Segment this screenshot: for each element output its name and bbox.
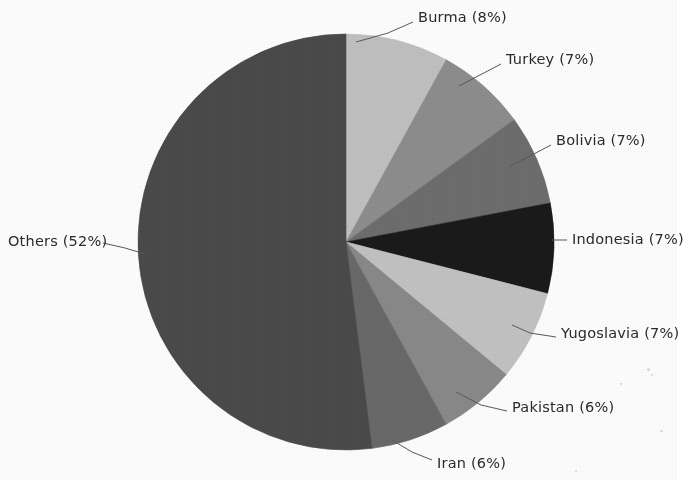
pie-label-indonesia: Indonesia (7%): [572, 232, 684, 247]
pie-label-others: Others (52%): [8, 234, 107, 249]
pie-label-bolivia: Bolivia (7%): [556, 133, 646, 148]
pie-label-pakistan: Pakistan (6%): [512, 400, 614, 415]
pie-label-yugoslavia: Yugoslavia (7%): [561, 326, 679, 341]
pie-slices-group: [138, 34, 554, 450]
pie-label-turkey: Turkey (7%): [506, 52, 594, 67]
pie-label-burma: Burma (8%): [418, 10, 507, 25]
pie-label-iran: Iran (6%): [437, 456, 506, 471]
pie-slice-others[interactable]: [138, 34, 372, 450]
